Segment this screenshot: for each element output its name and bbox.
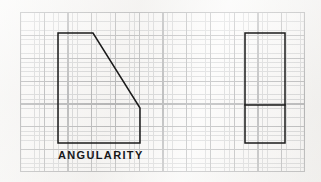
figure-label-angularity: ANGULARITY [58,149,144,162]
figure-page: ANGULARITY [0,0,321,182]
graph-paper-grid [20,12,305,172]
